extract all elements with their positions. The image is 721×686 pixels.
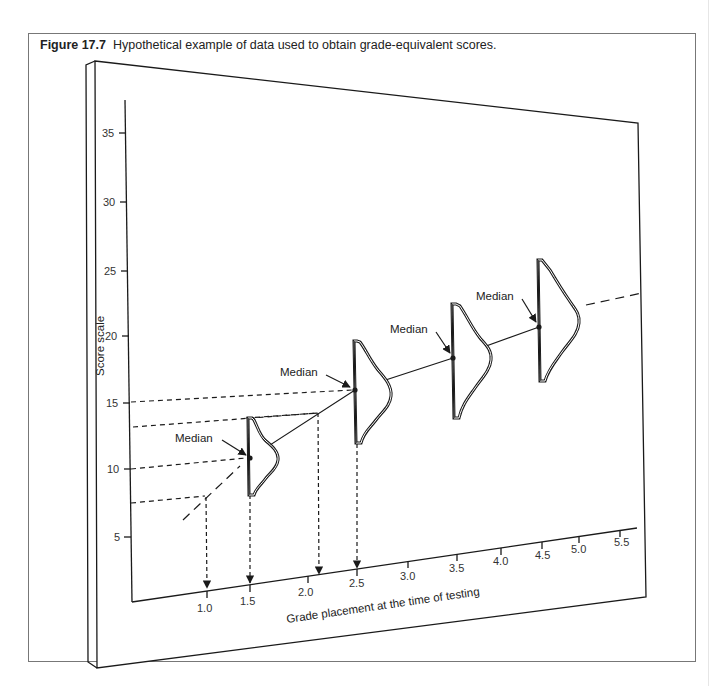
x-tick-label: 4.5	[535, 549, 550, 561]
median-label: Median	[280, 366, 318, 378]
y-axis-title: Score scale	[94, 316, 106, 376]
chart: 35 30 25 20 15 10 5 Score scale 1.0 1.5 …	[0, 0, 721, 686]
x-tick-label: 3.5	[449, 562, 464, 574]
median-label: Median	[476, 290, 514, 302]
y-tick-label: 20	[105, 330, 117, 342]
x-tick-label: 4.0	[493, 555, 508, 567]
x-tick-label: 5.0	[571, 543, 586, 555]
median-label: Median	[175, 432, 213, 444]
x-tick-label: 5.5	[614, 536, 629, 548]
y-tick-label: 5	[114, 531, 120, 543]
y-tick-label: 30	[103, 196, 115, 208]
median-label: Median	[390, 323, 428, 335]
y-tick-label: 15	[106, 397, 118, 409]
x-tick-label: 2.5	[349, 577, 364, 589]
y-tick-label: 25	[104, 265, 116, 277]
x-tick-label: 3.0	[400, 570, 415, 582]
x-tick-label: 2.0	[298, 586, 313, 598]
x-tick-label: 1.0	[197, 602, 212, 614]
y-tick-label: 35	[102, 127, 114, 139]
y-tick-label: 10	[107, 463, 119, 475]
x-tick-label: 1.5	[240, 595, 255, 607]
